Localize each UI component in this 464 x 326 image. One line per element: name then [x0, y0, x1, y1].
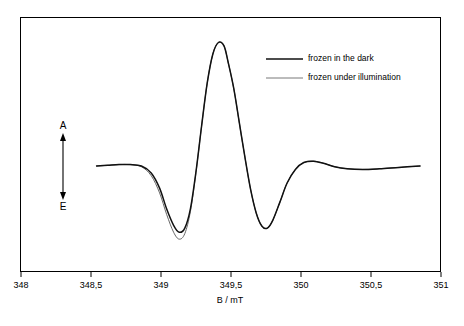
x-tick-label: 349: [136, 281, 186, 290]
legend-swatches: [266, 59, 303, 78]
x-tick-label: 348: [0, 281, 46, 290]
legend-label-illuminated: frozen under illumination: [308, 73, 401, 82]
x-tick-label: 350: [276, 281, 326, 290]
x-tick-label: 348,5: [66, 281, 116, 290]
x-tick-label: 350,5: [346, 281, 396, 290]
x-axis-ticks: [21, 272, 441, 277]
x-axis-title: B / mT: [170, 295, 290, 305]
absorption-label: A: [53, 121, 73, 131]
legend-label-dark: frozen in the dark: [308, 54, 374, 63]
x-tick-label: 349,5: [206, 281, 256, 290]
trace-dark: [97, 42, 420, 232]
chart-canvas: [0, 0, 464, 326]
epr-spectrum-figure: 348348,5349349,5350350,5351 B / mT A E f…: [0, 0, 464, 326]
intensity-arrow-icon: [60, 133, 66, 200]
x-tick-label: 351: [416, 281, 464, 290]
emission-label: E: [53, 202, 73, 212]
